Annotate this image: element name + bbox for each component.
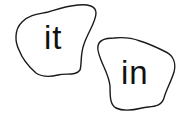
word-it: it — [44, 21, 63, 54]
blob-canvas — [0, 0, 186, 119]
word-in: in — [121, 56, 149, 89]
